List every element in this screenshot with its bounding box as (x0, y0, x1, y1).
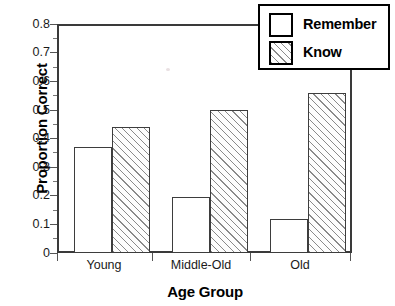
bar-young-remember (74, 147, 112, 253)
bar-chart-figure: Proportion Correct 0.8 0.7 0.6 0.5 0.4 0… (0, 0, 395, 306)
y-tick-label-0.8: 0.8 (10, 18, 50, 30)
y-tick-label-0.5: 0.5 (10, 104, 50, 116)
y-tick-mark-0.8 (50, 24, 57, 25)
x-tick-label-old: Old (240, 258, 360, 272)
legend-label-know: Know (303, 44, 342, 60)
legend-label-remember: Remember (303, 16, 376, 32)
y-tick-mark-0.5 (50, 110, 57, 111)
legend-swatch-hatched-icon (269, 41, 293, 65)
bar-old-remember (270, 219, 308, 253)
scan-artifact (166, 68, 170, 71)
y-tick-mark-0.4 (50, 138, 57, 139)
y-tick-mark-0.6 (50, 81, 57, 82)
bar-old-know (308, 93, 346, 253)
y-tick-label-0.1: 0.1 (10, 218, 50, 230)
chart-legend: Remember Know (258, 4, 390, 70)
y-tick-mark-0 (50, 253, 57, 254)
y-tick-mark-0.3 (50, 167, 57, 168)
x-axis-title: Age Group (55, 283, 355, 300)
y-tick-mark-0.1 (50, 224, 57, 225)
y-tick-label-0.6: 0.6 (10, 75, 50, 87)
y-tick-mark-0.2 (50, 195, 57, 196)
bar-middle-old-know (210, 110, 248, 253)
bar-middle-old-remember (172, 197, 210, 253)
y-tick-label-0.3: 0.3 (10, 161, 50, 173)
y-tick-label-0.7: 0.7 (10, 46, 50, 58)
y-tick-label-0.2: 0.2 (10, 189, 50, 201)
y-tick-label-0.4: 0.4 (10, 132, 50, 144)
bar-young-know (112, 127, 150, 253)
legend-swatch-open-icon (269, 13, 293, 37)
y-tick-mark-0.7 (50, 52, 57, 53)
